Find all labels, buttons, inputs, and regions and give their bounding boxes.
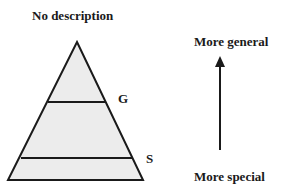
- pyramid: [8, 42, 143, 180]
- more-general-label: More general: [194, 35, 268, 49]
- more-special-label: More special: [194, 170, 265, 184]
- level-label-s: S: [146, 152, 153, 166]
- level-label-g: G: [118, 92, 128, 106]
- diagram-title: No description: [32, 9, 113, 23]
- arrow-up-icon: [215, 56, 225, 67]
- diagram-canvas: [0, 0, 288, 194]
